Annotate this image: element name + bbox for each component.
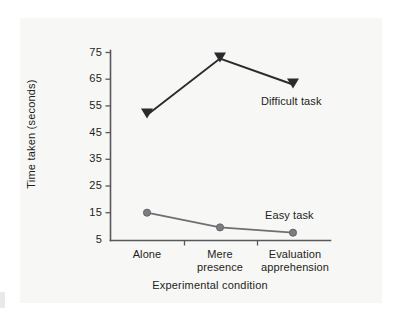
x-tick-label-mere-presence: Mere presence: [185, 248, 255, 274]
series-annotation-difficult-task: Difficult task: [261, 95, 322, 107]
y-tick-label-45: 45: [76, 126, 102, 138]
x-tick-label-evaluation-line2: apprehension: [252, 261, 338, 274]
data-point-difficult-alone: [141, 109, 153, 119]
y-tick-label-35: 35: [76, 152, 102, 164]
line-chart-plot: [0, 0, 395, 326]
x-tick-label-mere-presence-line2: presence: [185, 261, 255, 274]
series-line-difficult-task: [141, 53, 299, 119]
data-point-easy-mere-presence: [216, 224, 223, 231]
data-point-easy-evaluation: [289, 229, 296, 236]
data-point-easy-alone: [143, 209, 150, 216]
y-tick-label-55: 55: [76, 99, 102, 111]
y-axis-label: Time taken (seconds): [25, 59, 37, 209]
x-tick-label-alone-line1: Alone: [112, 248, 182, 261]
y-tick-label-15: 15: [76, 206, 102, 218]
x-axis-label: Experimental condition: [110, 279, 310, 291]
x-tick-label-alone: Alone: [112, 248, 182, 261]
series-annotation-easy-task: Easy task: [265, 209, 314, 221]
y-tick-label-65: 65: [76, 72, 102, 84]
figure: 75 65 55 45 35 25 15 5 Time taken (secon…: [0, 0, 395, 326]
y-tick-label-75: 75: [76, 46, 102, 58]
x-tick-label-evaluation-line1: Evaluation: [252, 248, 338, 261]
y-tick-label-5: 5: [76, 233, 102, 245]
x-tick-label-mere-presence-line1: Mere: [185, 248, 255, 261]
x-tick-label-evaluation-apprehension: Evaluation apprehension: [252, 248, 338, 274]
y-tick-label-25: 25: [76, 179, 102, 191]
